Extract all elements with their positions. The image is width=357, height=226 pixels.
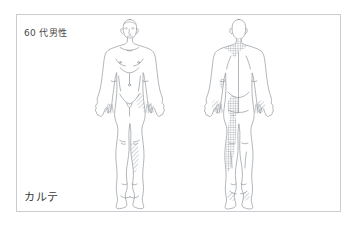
karte-title-label: カルテ: [24, 188, 59, 204]
patient-age-sex-label: 60 代男性: [24, 26, 67, 39]
body-chart-frame: [16, 14, 341, 212]
